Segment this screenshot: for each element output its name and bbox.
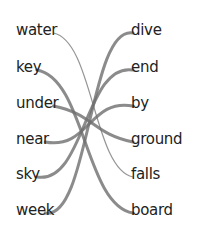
left-word[interactable]: water xyxy=(16,23,57,38)
left-word[interactable]: near xyxy=(16,132,49,147)
left-word[interactable]: week xyxy=(16,203,54,218)
left-word[interactable]: under xyxy=(16,96,58,111)
right-word[interactable]: by xyxy=(131,96,149,111)
right-word[interactable]: end xyxy=(131,60,158,75)
match-line-week-dive xyxy=(45,33,133,213)
right-word[interactable]: dive xyxy=(131,23,162,38)
right-word[interactable]: board xyxy=(131,203,173,218)
match-line-sky-end xyxy=(37,70,133,178)
left-word[interactable]: sky xyxy=(16,167,40,182)
right-word[interactable]: ground xyxy=(131,132,182,147)
right-word[interactable]: falls xyxy=(131,167,160,182)
left-word[interactable]: key xyxy=(16,60,41,75)
